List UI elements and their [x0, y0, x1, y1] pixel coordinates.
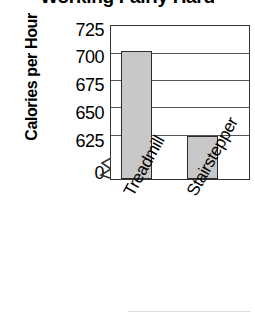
y-axis-title: Calories per Hour [23, 2, 41, 152]
y-tick-label-725: 725 [58, 21, 104, 39]
y-tick-label-700: 700 [58, 48, 104, 66]
y-tick-label-675: 675 [58, 76, 104, 94]
y-tick-label-650: 650 [58, 104, 104, 122]
y-tick-label-625: 625 [58, 132, 104, 150]
plot-area [110, 25, 250, 180]
bottom-divider [128, 311, 250, 312]
